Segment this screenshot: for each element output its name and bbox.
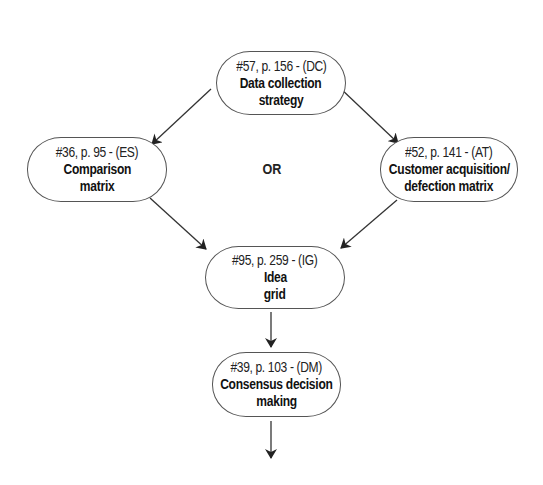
node-title-line: Data collection <box>240 75 322 92</box>
branch-or-label: OR <box>254 161 290 177</box>
node-title-line: Customer acquisition/ <box>388 161 509 178</box>
node-ref: #52, p. 141 - (AT) <box>405 144 492 161</box>
node-title-line: Comparison <box>63 161 131 178</box>
node-consensus-decision-making: #39, p. 103 - (DM) Consensus decision ma… <box>212 352 341 417</box>
node-title-line: defection matrix <box>405 178 494 195</box>
node-data-collection-strategy: #57, p. 156 - (DC) Data collection strat… <box>216 51 346 115</box>
node-title-line: Consensus decision <box>220 376 332 393</box>
node-ref: #57, p. 156 - (DC) <box>236 58 326 75</box>
node-ref: #95, p. 259 - (IG) <box>232 252 318 269</box>
node-ref: #39, p. 103 - (DM) <box>231 359 323 376</box>
node-customer-acquisition-defection-matrix: #52, p. 141 - (AT) Customer acquisition/… <box>380 137 518 202</box>
node-idea-grid: #95, p. 259 - (IG) Idea grid <box>205 246 345 309</box>
edge-dc-to-es <box>152 89 211 144</box>
flowchart-diagram: #57, p. 156 - (DC) Data collection strat… <box>0 0 543 485</box>
edge-es-to-ig <box>150 198 206 249</box>
node-title-line: strategy <box>259 92 304 109</box>
node-title-line: Idea <box>263 269 286 286</box>
node-ref: #36, p. 95 - (ES) <box>56 144 138 161</box>
node-title-line: making <box>256 393 297 410</box>
edge-at-to-ig <box>341 200 397 248</box>
node-title-line: matrix <box>80 178 115 195</box>
node-comparison-matrix: #36, p. 95 - (ES) Comparison matrix <box>27 137 167 202</box>
edge-dc-to-at <box>339 87 398 143</box>
node-title-line: grid <box>264 286 286 303</box>
